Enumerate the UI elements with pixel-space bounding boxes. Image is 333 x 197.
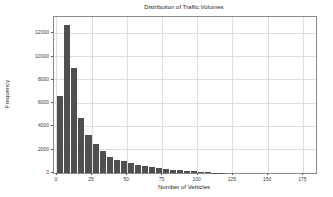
x-gridline <box>232 17 233 173</box>
histogram-bar <box>121 161 127 173</box>
histogram-bar <box>78 118 84 173</box>
x-gridline <box>303 17 304 173</box>
histogram-bar <box>64 25 70 173</box>
x-tick-mark <box>161 173 162 175</box>
histogram-bar <box>205 172 211 173</box>
x-axis-label: Number of Vehicles <box>53 184 315 190</box>
histogram-bar <box>100 151 106 173</box>
histogram-bar <box>57 96 63 173</box>
histogram-bar <box>142 166 148 173</box>
y-tick-mark <box>51 32 53 33</box>
x-tick-mark <box>56 173 57 175</box>
y-axis-label: Frequency <box>4 64 10 124</box>
x-tick-label: 100 <box>193 176 201 182</box>
histogram-bar <box>114 160 120 173</box>
histogram-bar <box>163 169 169 173</box>
plot-area <box>53 16 317 174</box>
x-gridline <box>162 17 163 173</box>
histogram-bar <box>93 144 99 173</box>
histogram-bar <box>170 170 176 173</box>
histogram-bar <box>198 172 204 173</box>
x-gridline <box>197 17 198 173</box>
x-tick-label: 175 <box>298 176 306 182</box>
y-tick-mark <box>51 172 53 173</box>
y-tick-label: 12000 <box>35 29 49 35</box>
x-tick-mark <box>302 173 303 175</box>
x-tick-label: 0 <box>54 176 57 182</box>
y-tick-label: 8000 <box>38 76 49 82</box>
x-tick-mark <box>197 173 198 175</box>
y-tick-mark <box>51 149 53 150</box>
traffic-volume-histogram-figure: Distribution of Traffic Volumes Frequenc… <box>0 0 333 197</box>
y-tick-mark <box>51 125 53 126</box>
x-tick-mark <box>267 173 268 175</box>
y-gridline <box>54 56 316 57</box>
y-tick-mark <box>51 56 53 57</box>
histogram-bar <box>128 163 134 173</box>
y-gridline <box>54 126 316 127</box>
y-tick-label: 4000 <box>38 122 49 128</box>
y-tick-label: 2000 <box>38 146 49 152</box>
x-tick-label: 25 <box>88 176 94 182</box>
histogram-bar <box>184 171 190 173</box>
y-tick-label: 10000 <box>35 53 49 59</box>
x-tick-label: 75 <box>159 176 165 182</box>
histogram-bar <box>85 135 91 173</box>
y-tick-label: 6000 <box>38 99 49 105</box>
histogram-bar <box>71 68 77 173</box>
x-tick-label: 50 <box>123 176 129 182</box>
y-tick-mark <box>51 79 53 80</box>
histogram-bar <box>177 170 183 173</box>
x-tick-label: 125 <box>228 176 236 182</box>
x-tick-label: 150 <box>263 176 271 182</box>
histogram-bar <box>149 167 155 173</box>
x-tick-mark <box>232 173 233 175</box>
x-gridline <box>127 17 128 173</box>
y-gridline <box>54 103 316 104</box>
y-tick-mark <box>51 102 53 103</box>
x-gridline <box>268 17 269 173</box>
y-gridline <box>54 79 316 80</box>
y-gridline <box>54 33 316 34</box>
histogram-bar <box>107 157 113 173</box>
chart-title: Distribution of Traffic Volumes <box>53 4 315 10</box>
x-tick-mark <box>126 173 127 175</box>
x-tick-mark <box>91 173 92 175</box>
y-tick-label: 0 <box>46 169 49 175</box>
histogram-bar <box>135 165 141 173</box>
